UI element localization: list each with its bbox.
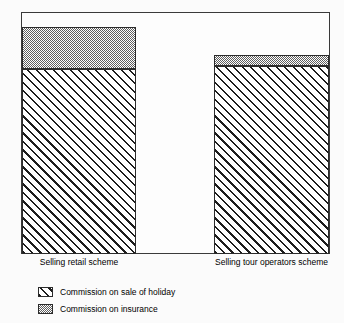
bar-2 (214, 55, 329, 254)
bar-2-segment-2 (214, 55, 329, 66)
hatch-swatch (38, 287, 53, 297)
dither-swatch (38, 304, 53, 314)
chart-legend: Commission on sale of holiday Commission… (38, 283, 175, 317)
bar-1-segment-1 (22, 69, 136, 254)
bar-1-segment-2 (22, 27, 136, 69)
y-axis: 02468101214161820222426 (0, 0, 21, 266)
stacked-bar-chart: 02468101214161820222426 Selling retail s… (0, 0, 344, 323)
legend-label-insurance: Commission on insurance (60, 304, 158, 314)
plot-area (22, 13, 329, 254)
legend-item-holiday: Commission on sale of holiday (38, 283, 175, 300)
legend-label-holiday: Commission on sale of holiday (60, 287, 175, 297)
bar-2-segment-1 (214, 66, 329, 254)
x-axis-label-1: Selling retail scheme (22, 257, 136, 268)
bar-1 (22, 27, 136, 254)
legend-item-insurance: Commission on insurance (38, 300, 175, 317)
x-axis-label-2: Selling tour operators scheme (214, 257, 329, 268)
